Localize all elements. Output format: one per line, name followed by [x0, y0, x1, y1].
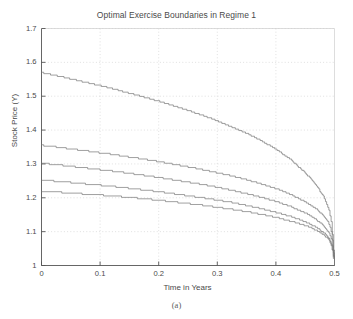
axis-ticks: [42, 29, 335, 266]
x-tick-label: 0.2: [144, 269, 174, 278]
x-tick-label: 0.4: [261, 269, 291, 278]
y-tick-label: 1.4: [11, 125, 37, 134]
figure-panel: Optimal Exercise Boundaries in Regime 1 …: [0, 0, 353, 319]
boundary-curve: [42, 163, 335, 265]
boundary-curve: [42, 180, 335, 265]
grid-lines: [42, 29, 335, 266]
y-tick-label: 1.7: [11, 24, 37, 33]
boundary-curve: [42, 192, 335, 266]
y-tick-label: 1.2: [11, 193, 37, 202]
x-tick-label: 0.5: [320, 269, 350, 278]
y-tick-label: 1.1: [11, 227, 37, 236]
x-tick-label: 0.1: [85, 269, 115, 278]
y-tick-label: 1.6: [11, 57, 37, 66]
x-axis-label: Time in Years: [41, 283, 334, 292]
x-tick-label: 0.3: [202, 269, 232, 278]
x-tick-label: 0: [27, 269, 57, 278]
y-tick-label: 1.5: [11, 91, 37, 100]
figure-caption: (a): [0, 300, 353, 310]
y-tick-label: 1.3: [11, 159, 37, 168]
axes-frame: [42, 29, 335, 266]
boundary-curve: [42, 145, 335, 266]
data-curves: [42, 72, 335, 265]
boundary-curve: [42, 72, 335, 265]
